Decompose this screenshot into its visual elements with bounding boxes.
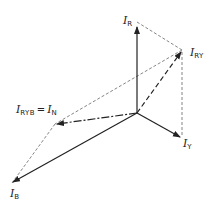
label-iryb-in: IRYB=IN (16, 104, 57, 117)
construction-line-r-ry (137, 22, 182, 50)
phasor-iy (137, 113, 180, 137)
construction-line-ry-n (55, 50, 182, 124)
label-ir: IR (123, 15, 133, 28)
phasor-in (57, 113, 137, 124)
phasor-ib (13, 113, 137, 182)
label-ib: IB (10, 188, 19, 201)
label-iy: IY (183, 138, 192, 151)
phasor-iry (137, 52, 181, 113)
label-iry: IRY (190, 47, 204, 60)
construction-line-n-b (12, 124, 55, 183)
